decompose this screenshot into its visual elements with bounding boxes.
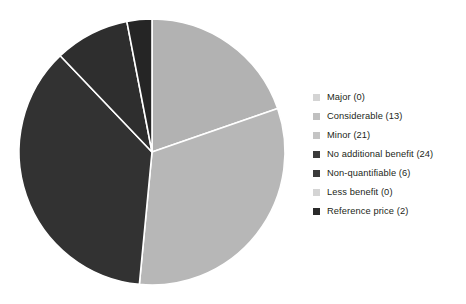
legend-item-no-additional-benefit[interactable]: No additional benefit (24)	[313, 145, 466, 164]
legend-label-less-benefit: Less benefit (0)	[327, 187, 393, 198]
legend-label-minor: Minor (21)	[327, 130, 370, 141]
chart-legend: Major (0) Considerable (13) Minor (21) N…	[313, 88, 466, 221]
legend-item-reference-price[interactable]: Reference price (2)	[313, 202, 466, 221]
pie-chart-figure: Major (0) Considerable (13) Minor (21) N…	[0, 0, 466, 304]
legend-label-major: Major (0)	[327, 92, 365, 103]
legend-swatch-considerable	[313, 113, 320, 120]
pie-slice-group	[19, 19, 285, 285]
legend-swatch-minor	[313, 132, 320, 139]
legend-swatch-reference-price	[313, 208, 320, 215]
legend-label-no-additional-benefit: No additional benefit (24)	[327, 149, 433, 160]
legend-label-reference-price: Reference price (2)	[327, 206, 408, 217]
legend-swatch-no-additional-benefit	[313, 151, 320, 158]
legend-item-considerable[interactable]: Considerable (13)	[313, 107, 466, 126]
pie-plot-area	[0, 0, 304, 304]
legend-item-minor[interactable]: Minor (21)	[313, 126, 466, 145]
legend-item-non-quantifiable[interactable]: Non-quantifiable (6)	[313, 164, 466, 183]
legend-label-considerable: Considerable (13)	[327, 111, 402, 122]
legend-swatch-non-quantifiable	[313, 170, 320, 177]
legend-swatch-major	[313, 94, 320, 101]
legend-label-non-quantifiable: Non-quantifiable (6)	[327, 168, 411, 179]
pie-svg	[0, 0, 304, 304]
legend-item-less-benefit[interactable]: Less benefit (0)	[313, 183, 466, 202]
legend-item-major[interactable]: Major (0)	[313, 88, 466, 107]
legend-swatch-less-benefit	[313, 189, 320, 196]
